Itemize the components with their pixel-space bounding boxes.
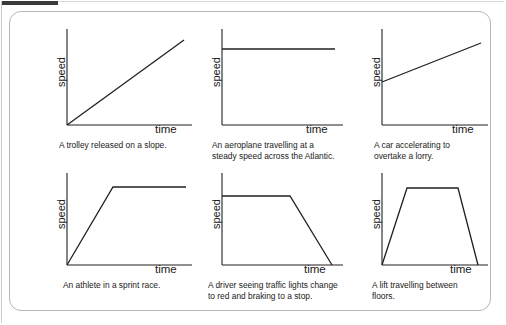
data-line <box>382 188 478 265</box>
x-axis-label: time <box>452 123 474 135</box>
x-axis-label: time <box>306 123 328 135</box>
x-axis-label: time <box>155 263 177 275</box>
x-axis-label: time <box>450 263 472 275</box>
panel-caption: A lift travelling between floors. <box>372 280 497 301</box>
data-line <box>67 187 186 265</box>
chart-aeroplane <box>200 25 350 137</box>
chart-trolley <box>45 25 195 137</box>
data-line <box>222 196 332 265</box>
y-axis-label: speed <box>370 199 382 229</box>
data-line <box>67 40 184 125</box>
graph-cell-athlete: speed time An athlete in a sprint race. <box>45 169 195 299</box>
graph-cell-lift: speed time A lift travelling between flo… <box>360 169 495 299</box>
y-axis-label: speed <box>55 57 67 87</box>
graph-cell-trolley: speed time A trolley released on a slope… <box>45 25 195 155</box>
y-axis-label: speed <box>370 57 382 87</box>
y-axis-label: speed <box>210 57 222 87</box>
panel-caption: An athlete in a sprint race. <box>63 280 203 291</box>
x-axis-label: time <box>304 263 326 275</box>
worksheet-page: speed time A trolley released on a slope… <box>0 0 506 325</box>
x-axis-label: time <box>155 123 177 135</box>
panel-caption: A driver seeing traffic lights change to… <box>208 280 363 301</box>
chart-driver <box>200 169 350 279</box>
panel-caption: A car accelerating to overtake a lorry. <box>374 140 499 161</box>
y-axis-label: speed <box>55 199 67 229</box>
graph-cell-driver: speed time A driver seeing traffic light… <box>200 169 355 299</box>
data-line <box>382 43 481 82</box>
panel-caption: A trolley released on a slope. <box>59 140 204 151</box>
y-axis-label: speed <box>210 199 222 229</box>
graph-cell-car: speed time A car accelerating to overtak… <box>360 25 495 155</box>
graph-cell-aeroplane: speed time An aeroplane travelling at a … <box>200 25 355 155</box>
top-tab-bar <box>2 1 58 5</box>
graph-grid: speed time A trolley released on a slope… <box>9 11 491 311</box>
panel-caption: An aeroplane travelling at a steady spee… <box>212 140 362 161</box>
